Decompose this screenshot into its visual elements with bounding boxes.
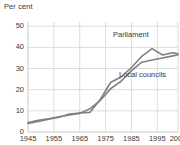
series-label-parliament: Parliament [113,30,149,39]
series-line [28,55,178,123]
chart-container: Per cent 01020304050 1945195519651975198… [0,0,180,145]
series-lines [28,49,178,124]
series-label-local-councils: Local councils [119,70,166,79]
